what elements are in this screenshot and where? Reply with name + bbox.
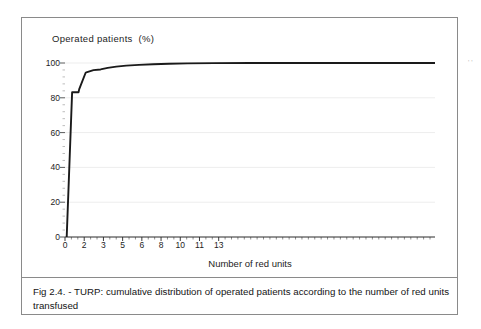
caption-separator-rule [21, 277, 458, 278]
scan-artifact-mark: ' ' [468, 59, 476, 66]
y-axis-tick-label: 20 [51, 198, 60, 207]
y-axis-tick-label: 100 [46, 59, 60, 68]
plot-area [65, 63, 435, 237]
y-axis-tick-label: 40 [51, 163, 60, 172]
x-axis-tick-label: 5 [120, 241, 125, 250]
x-axis-tick-label: 13 [214, 241, 223, 250]
x-axis-tick-label: 10 [176, 241, 185, 250]
chart-title: Operated patients (%) [52, 33, 154, 44]
x-axis-tick-label: 0 [63, 241, 68, 250]
gridlines [65, 63, 435, 202]
x-axis-tick-label: 3 [101, 241, 106, 250]
y-axis-tick-label: 80 [51, 94, 60, 103]
x-axis-title: Number of red units [65, 258, 435, 269]
figure-caption: Fig 2.4. - TURP: cumulative distribution… [33, 285, 449, 313]
x-axis-tick-label: 11 [195, 241, 204, 250]
y-axis-tick-labels: 020406080100 [33, 63, 60, 237]
chart-plot-svg [65, 63, 435, 237]
x-axis-tick-label: 2 [82, 241, 87, 250]
x-axis-tick-label: 8 [159, 241, 164, 250]
cumulative-distribution-line [67, 63, 435, 237]
x-axis-tick-labels: 023568101113 [65, 241, 435, 253]
y-axis-tick-label: 0 [55, 233, 60, 242]
x-axis-tick-label: 6 [139, 241, 144, 250]
y-axis-tick-label: 60 [51, 129, 60, 138]
